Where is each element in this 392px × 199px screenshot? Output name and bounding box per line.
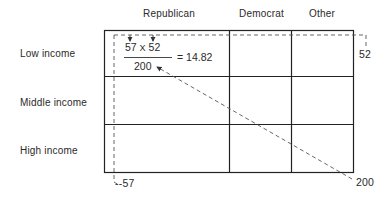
formula-denominator: 200 <box>134 60 152 72</box>
formula-row-total: 57 <box>125 41 137 53</box>
formula-multiply-sign: X <box>140 43 146 53</box>
row-total-bracket <box>114 35 119 185</box>
crosstab-diagram <box>0 0 392 199</box>
formula-result: = 14.82 <box>177 51 212 63</box>
grand-total-arrow <box>157 67 352 179</box>
row-total-label: --57 <box>115 177 134 189</box>
column-total-label: 52 <box>359 48 371 60</box>
grand-total-label: 200 <box>356 176 374 188</box>
formula-numerator: 57 X 52 <box>125 41 160 53</box>
formula-column-total: 52 <box>149 41 161 53</box>
